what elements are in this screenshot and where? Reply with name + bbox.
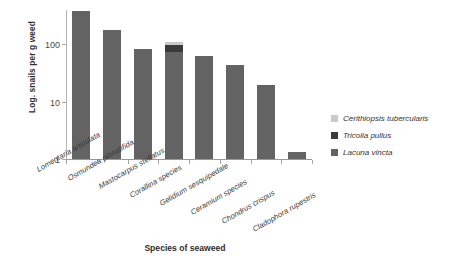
x-tick-mark	[158, 160, 159, 164]
x-tick-mark	[312, 160, 313, 164]
bar-group	[103, 30, 121, 159]
chart-legend: Cerithiopsis tubercularisTricolia pullus…	[331, 110, 461, 161]
legend-swatch-icon	[331, 149, 338, 156]
legend-item[interactable]: Tricolia pullus	[331, 127, 461, 144]
legend-item[interactable]: Lacuna vincta	[331, 144, 461, 161]
x-tick-mark	[251, 160, 252, 164]
bar-segment	[165, 52, 183, 159]
x-tick-mark	[189, 160, 190, 164]
y-tick-label: 100	[45, 40, 60, 50]
legend-item[interactable]: Cerithiopsis tubercularis	[331, 110, 461, 127]
plot-area: 110100	[66, 10, 312, 160]
bar-segment	[134, 49, 152, 159]
bar-group	[257, 85, 275, 160]
bar-group	[134, 49, 152, 159]
bar-segment	[288, 152, 306, 159]
legend-swatch-icon	[331, 115, 338, 122]
bar-segment	[226, 65, 244, 159]
legend-label: Cerithiopsis tubercularis	[343, 114, 428, 123]
bar-segment	[195, 56, 213, 159]
x-axis-title: Species of seaweed	[0, 243, 370, 253]
bar-group	[288, 152, 306, 159]
x-tick-mark	[281, 160, 282, 164]
legend-label: Lacuna vincta	[343, 148, 392, 157]
bar-group	[226, 65, 244, 159]
bar-group	[195, 56, 213, 159]
y-tick-mark	[62, 44, 66, 45]
legend-swatch-icon	[331, 132, 338, 139]
bar-segment	[257, 85, 275, 160]
y-tick-mark	[62, 102, 66, 103]
bar-segment	[103, 30, 121, 159]
x-tick-mark	[66, 160, 67, 164]
y-axis-line	[66, 10, 67, 160]
y-tick-label: 10	[50, 98, 60, 108]
legend-label: Tricolia pullus	[343, 131, 391, 140]
y-axis-title: Log. snails per g weed	[27, 0, 37, 147]
chart-container: Log. snails per g weed 110100 Lomentaria…	[0, 0, 464, 265]
bar-group	[165, 42, 183, 159]
